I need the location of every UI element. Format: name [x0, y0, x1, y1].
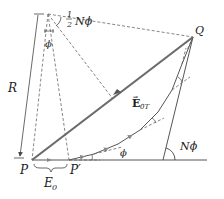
chain-arrow — [128, 136, 131, 138]
chain-arrow — [80, 157, 83, 158]
half-n-phi-arc — [56, 17, 61, 26]
label-p: P — [19, 163, 29, 177]
radius-to-p — [32, 14, 48, 160]
r-dimension-arrow — [20, 15, 38, 156]
chain-arrow — [104, 149, 107, 150]
radius-to-p-prime — [48, 14, 69, 160]
label-n-phi: Nϕ — [179, 140, 198, 153]
label-half-num: 1 — [67, 10, 72, 19]
label-half-den: 2 — [66, 20, 72, 29]
label-phi-top: ϕ — [45, 38, 52, 49]
phasor-diagram: R 1 2 Nϕ ϕ Q → E 0T P P′ E 0 ϕ Nϕ — [0, 0, 224, 199]
phi-arc-2 — [152, 118, 156, 123]
e0-arrowhead — [47, 158, 52, 162]
label-e0-sub: 0 — [52, 183, 57, 192]
label-half-n-phi: Nϕ — [74, 15, 93, 28]
phasor-chain — [69, 37, 193, 160]
extension-dash-3 — [140, 118, 164, 130]
label-e0t-sub: 0T — [140, 103, 150, 111]
e0-brace — [34, 164, 67, 172]
phi-arc-3 — [178, 77, 182, 82]
label-phi-bottom: ϕ — [120, 147, 127, 158]
n-phi-arc — [166, 148, 175, 160]
resultant-e0t — [32, 37, 193, 160]
label-q: Q — [195, 24, 204, 37]
label-p-prime: P′ — [69, 163, 81, 177]
label-r: R — [7, 81, 17, 95]
